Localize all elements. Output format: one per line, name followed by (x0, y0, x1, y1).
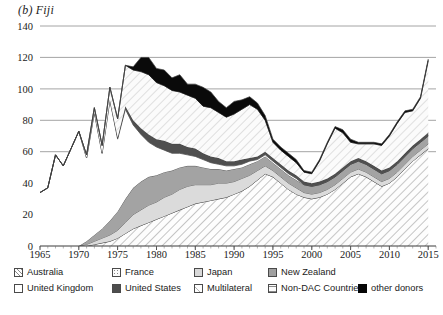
x-axis-labels: 1965197019751980198519901995200020052010… (30, 249, 439, 260)
legend-item-australia[interactable]: Australia (14, 268, 63, 277)
legend-item-new-zealand[interactable]: New Zealand (268, 268, 336, 277)
x-tick-label: 1990 (224, 249, 245, 260)
japan-swatch-icon (194, 268, 203, 277)
x-tick-label: 2015 (418, 249, 439, 260)
non-dac-swatch-icon (268, 284, 277, 293)
legend-label-multilateral: Multilateral (207, 284, 252, 293)
y-tick-label: 40 (23, 178, 34, 189)
chart-figure: (b) Fiji (0, 0, 443, 315)
x-tick-label: 1985 (185, 249, 206, 260)
legend-label-australia: Australia (27, 268, 63, 277)
x-tick-label: 2000 (301, 249, 322, 260)
legend-label-japan: Japan (207, 268, 232, 277)
y-tick-label: 100 (17, 84, 33, 95)
stacked-area-chart: 020406080100120140 196519701975198019851… (0, 0, 443, 260)
y-tick-label: 60 (23, 146, 34, 157)
legend-item-united-kingdom[interactable]: United Kingdom (14, 284, 93, 293)
x-tick-label: 2005 (340, 249, 361, 260)
legend-item-other-donors[interactable]: other donors (358, 284, 423, 293)
france-swatch-icon (112, 268, 121, 277)
chart-legend: Australia France Japan New Zealand Unite… (0, 268, 443, 310)
legend-label-united-states: United States (125, 284, 181, 293)
united-states-swatch-icon (112, 284, 121, 293)
series-areas (40, 57, 428, 246)
x-tick-label: 1980 (146, 249, 167, 260)
united-kingdom-swatch-icon (14, 284, 23, 293)
x-tick-label: 1965 (30, 249, 51, 260)
legend-label-united-kingdom: United Kingdom (27, 284, 93, 293)
x-tick-label: 2010 (379, 249, 400, 260)
x-tick-label: 1995 (262, 249, 283, 260)
other-donors-swatch-icon (358, 284, 367, 293)
legend-label-non-dac: Non-DAC Countries (281, 284, 363, 293)
x-tick-label: 1970 (68, 249, 89, 260)
y-tick-label: 140 (17, 21, 33, 32)
legend-item-united-states[interactable]: United States (112, 284, 181, 293)
y-tick-label: 20 (23, 209, 34, 220)
legend-item-france[interactable]: France (112, 268, 154, 277)
legend-label-new-zealand: New Zealand (281, 268, 336, 277)
legend-row-2: United Kingdom United States Multilatera… (0, 284, 443, 302)
x-tick-label: 1975 (107, 249, 128, 260)
multilateral-swatch-icon (194, 284, 203, 293)
new-zealand-swatch-icon (268, 268, 277, 277)
legend-label-other-donors: other donors (371, 284, 423, 293)
y-axis-labels: 020406080100120140 (17, 21, 33, 252)
legend-label-france: France (125, 268, 154, 277)
y-tick-label: 120 (17, 52, 33, 63)
legend-item-japan[interactable]: Japan (194, 268, 232, 277)
legend-item-multilateral[interactable]: Multilateral (194, 284, 252, 293)
legend-item-non-dac[interactable]: Non-DAC Countries (268, 284, 363, 293)
plot-area: 020406080100120140 196519701975198019851… (0, 0, 443, 260)
australia-swatch-icon (14, 268, 23, 277)
y-tick-label: 80 (23, 115, 34, 126)
